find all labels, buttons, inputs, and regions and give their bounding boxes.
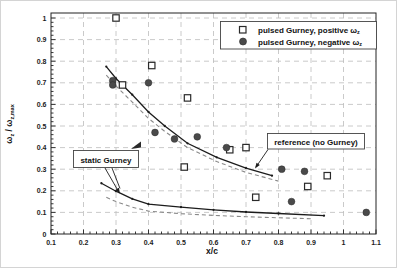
open-square-marker [113,15,119,21]
y-tick-label: 0.7 [37,79,47,86]
line-vertex-dot [271,175,273,177]
line-vertex-dot [186,142,188,144]
static-gurney-flag-icon [131,142,141,150]
line-vertex-dot [180,206,182,208]
filled-circle-marker [109,82,116,89]
x-axis-label: x/c [206,246,218,256]
scatter-chart: 0.10.20.30.40.50.60.70.80.911.100.10.20.… [1,1,397,268]
open-square-marker [324,172,330,178]
y-tick-label: 0.6 [37,101,47,108]
line-vertex-dot [131,94,133,96]
line-vertex-dot [216,156,218,158]
figure-container: 0.10.20.30.40.50.60.70.80.911.100.10.20.… [0,0,397,268]
y-tick-label: 0.1 [37,209,47,216]
reference-label: reference (no Gurney) [274,138,358,147]
open-square-marker [243,144,249,150]
legend-open-square-icon [240,27,247,34]
x-tick-label: 0.4 [144,239,154,246]
x-tick-label: 0.9 [306,239,316,246]
open-square-marker [184,95,190,101]
filled-circle-marker [223,144,230,151]
x-tick-label: 1.1 [371,239,381,246]
y-tick-label: 0.2 [37,187,47,194]
open-square-marker [149,62,155,68]
y-tick-label: 1 [43,15,47,22]
static-gurney-label: static Gurney [80,156,132,165]
y-label-sub2: z,max [9,103,15,119]
open-square-marker [253,194,259,200]
line-vertex-dot [105,65,107,67]
line-vertex-dot [323,214,325,216]
filled-circle-marker [152,129,159,136]
x-tick-label: 0.8 [274,239,284,246]
x-tick-label: 0.3 [111,239,121,246]
line-vertex-dot [147,111,149,113]
open-square-marker [181,164,187,170]
legend-item-positive-sub: z [357,29,360,35]
legend-item-negative-sub: z [359,41,362,47]
legend-item-positive: pulsed Gurney, positive ωz [258,26,360,36]
y-tick-label: 0.4 [37,144,47,151]
line-vertex-dot [164,125,166,127]
legend-filled-circle-icon [240,38,247,45]
x-tick-label: 0.5 [176,239,186,246]
x-tick-label: 1 [342,239,346,246]
open-square-marker [305,183,311,189]
y-tick-label: 0.5 [37,123,47,130]
x-tick-label: 0.1 [46,239,56,246]
line-vertex-dot [147,203,149,205]
legend-item-negative: pulsed Gurney, negative ωz [258,38,362,48]
y-tick-label: 0 [43,231,47,238]
y-label-base2: / ω [4,120,14,134]
y-axis-label: ωz / ωz,max [4,103,15,143]
line-vertex-dot [212,209,214,211]
y-label-base1: ω [4,137,14,144]
filled-circle-marker [171,136,178,143]
filled-circle-marker [194,133,201,140]
line-vertex-dot [131,198,133,200]
line-vertex-dot [100,182,102,184]
filled-circle-marker [278,166,285,173]
line-vertex-dot [245,167,247,169]
filled-circle-marker [301,168,308,175]
x-tick-label: 0.6 [209,239,219,246]
line-vertex-dot [277,212,279,214]
legend-item-negative-text: pulsed Gurney, negative ω [258,38,360,47]
y-tick-label: 0.3 [37,166,47,173]
reference-arrowhead-icon [255,163,260,169]
y-tick-label: 0.9 [37,36,47,43]
filled-circle-marker [363,209,370,216]
x-tick-label: 0.2 [79,239,89,246]
y-tick-label: 0.8 [37,58,47,65]
reference-callout: reference (no Gurney) [255,134,365,169]
filled-circle-marker [288,198,295,205]
open-square-marker [119,82,125,88]
x-tick-label: 0.7 [241,239,251,246]
filled-circle-marker [145,79,152,86]
legend: pulsed Gurney, positive ωz pulsed Gurney… [221,22,377,50]
legend-item-positive-text: pulsed Gurney, positive ω [258,26,357,35]
line-vertex-dot [245,211,247,213]
